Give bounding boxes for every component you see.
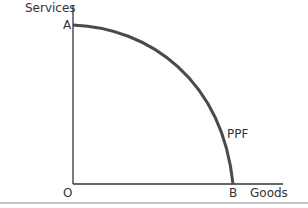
origin-label: O (63, 187, 72, 199)
curve-label: PPF (227, 128, 248, 140)
ppf-curve (73, 25, 233, 184)
ppf-diagram (0, 0, 308, 208)
point-b-label: B (229, 187, 237, 199)
x-axis-label: Goods (250, 187, 288, 199)
point-a-label: A (63, 19, 71, 31)
y-axis-label: Services (25, 2, 76, 14)
